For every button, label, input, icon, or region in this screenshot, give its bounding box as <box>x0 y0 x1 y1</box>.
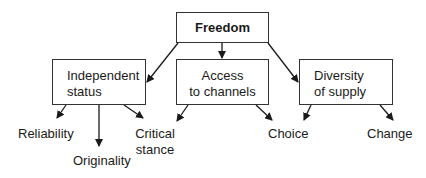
leaf-originality: Originality <box>73 153 131 169</box>
leaf-reliability: Reliability <box>18 126 74 142</box>
leaf-change: Change <box>367 126 413 142</box>
arrow-independent-to-reliability <box>57 105 66 118</box>
arrow-freedom-to-diversity <box>268 43 298 82</box>
arrow-independent-to-critical <box>124 105 143 118</box>
node-access-to-channels-line1: Access <box>177 68 268 84</box>
node-freedom-label: Freedom <box>195 20 250 36</box>
leaf-critical-stance-line2: stance <box>132 142 178 158</box>
node-diversity-of-supply: Diversity of supply <box>299 59 393 105</box>
leaf-choice: Choice <box>268 126 308 142</box>
node-independent-status-line1: Independent <box>67 68 145 84</box>
node-independent-status: Independent status <box>52 59 146 105</box>
node-access-to-channels-line2: to channels <box>177 84 268 100</box>
node-independent-status-line2: status <box>67 84 145 100</box>
leaf-critical-stance: Critical stance <box>132 126 178 158</box>
arrow-freedom-to-independent <box>147 43 178 82</box>
arrow-diversity-to-choice <box>304 105 311 120</box>
arrow-diversity-to-change <box>380 105 393 120</box>
node-access-to-channels: Access to channels <box>176 59 269 105</box>
node-diversity-of-supply-line1: Diversity <box>314 68 392 84</box>
leaf-critical-stance-line1: Critical <box>132 126 178 142</box>
arrow-access-to-choice <box>256 105 272 120</box>
node-freedom: Freedom <box>176 12 269 43</box>
node-diversity-of-supply-line2: of supply <box>314 84 392 100</box>
arrow-access-to-critical <box>177 105 188 121</box>
